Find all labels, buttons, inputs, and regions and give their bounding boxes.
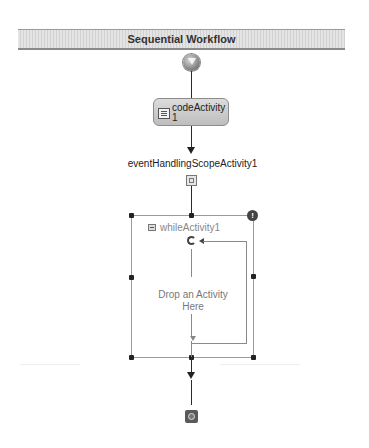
divider bbox=[20, 364, 80, 365]
resize-handle[interactable] bbox=[251, 355, 256, 360]
arrow-down-icon bbox=[187, 147, 195, 154]
collapse-icon[interactable] bbox=[148, 224, 156, 231]
resize-handle[interactable] bbox=[251, 274, 256, 279]
while-activity-label: whileActivity1 bbox=[160, 222, 220, 233]
resize-handle[interactable] bbox=[129, 275, 134, 280]
arrow-down-icon bbox=[187, 372, 195, 379]
resize-handle[interactable] bbox=[189, 213, 194, 218]
connector-code-to-ehs bbox=[191, 126, 192, 148]
resize-handle[interactable] bbox=[129, 355, 134, 360]
event-handlers-view-icon[interactable] bbox=[186, 175, 197, 186]
divider bbox=[220, 364, 300, 365]
warning-icon[interactable]: ! bbox=[247, 210, 258, 221]
loop-return-line bbox=[191, 343, 247, 344]
loop-icon bbox=[187, 236, 196, 245]
inner-connector bbox=[191, 314, 192, 336]
start-arrow-icon bbox=[183, 54, 200, 71]
resize-handle[interactable] bbox=[129, 213, 134, 218]
event-handling-scope-label[interactable]: eventHandlingScopeActivity1 bbox=[115, 158, 270, 169]
connector-start-to-code bbox=[191, 71, 192, 98]
workflow-title: Sequential Workflow bbox=[18, 33, 345, 45]
loop-return-line bbox=[203, 241, 246, 242]
workflow-header: Sequential Workflow bbox=[18, 29, 345, 50]
connector-while-to-end bbox=[191, 380, 192, 405]
loop-return-line bbox=[246, 241, 247, 343]
code-activity-icon bbox=[158, 108, 170, 119]
end-stop-icon bbox=[185, 410, 198, 423]
connector-ehs-to-while bbox=[191, 186, 192, 215]
code-activity[interactable]: codeActivity 1 bbox=[153, 98, 229, 126]
code-activity-label: codeActivity 1 bbox=[172, 103, 228, 123]
inner-connector bbox=[191, 249, 192, 277]
inner-connector bbox=[191, 341, 192, 357]
drop-activity-placeholder[interactable]: Drop an Activity Here bbox=[150, 289, 236, 313]
